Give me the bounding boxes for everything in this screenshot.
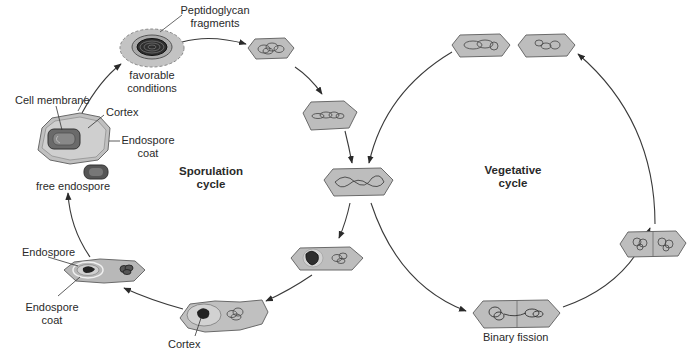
- label-endospore-coat-bottom-line2: coat: [22, 314, 82, 327]
- label-binary-fission: Binary fission: [483, 331, 548, 344]
- arrow-cortex-to-endospore: [124, 288, 183, 309]
- arrow-cell1-to-cell2: [295, 67, 322, 94]
- vegetative-cell-1: [248, 38, 294, 59]
- label-peptidoglycan-fragments: Peptidoglycan fragments: [180, 4, 250, 30]
- vegetative-cell-branch: [324, 168, 393, 196]
- endospore-in-cell: [48, 257, 145, 296]
- free-endospore: [84, 165, 108, 179]
- arrow-cell2-to-center: [345, 131, 352, 163]
- label-vegetative-line2: cycle: [478, 177, 548, 190]
- forespore-cell: [291, 247, 363, 270]
- germinating-spore: [120, 15, 184, 67]
- label-sporulation-line2: cycle: [178, 178, 244, 191]
- daughter-cell-left: [452, 34, 510, 57]
- label-vegetative-line1: Vegetative: [478, 164, 548, 177]
- label-free-endospore: free endospore: [36, 180, 110, 193]
- cortex-cell: [180, 300, 268, 336]
- label-sporulation-cycle: Sporulation cycle: [178, 165, 244, 191]
- label-sporulation-line1: Sporulation: [178, 165, 244, 178]
- vegetative-cell-2: [303, 101, 357, 130]
- diagram-canvas: [0, 0, 698, 358]
- arrow-germination-to-cell1: [182, 38, 246, 44]
- label-peptidoglycan-line1: Peptidoglycan: [180, 4, 250, 17]
- label-cortex-top: Cortex: [106, 106, 138, 119]
- label-endospore: Endospore: [22, 246, 75, 259]
- daughter-cell-right: [518, 34, 575, 57]
- arrow-forespore-to-cortex: [266, 275, 312, 301]
- binary-fission-cell: [473, 300, 560, 328]
- label-endospore-coat-bottom-line1: Endospore: [22, 301, 82, 314]
- label-peptidoglycan-line2: fragments: [180, 17, 250, 30]
- label-vegetative-cycle: Vegetative cycle: [478, 164, 548, 190]
- label-endospore-coat-top-line2: coat: [119, 147, 177, 160]
- arrow-center-to-forespore: [339, 203, 350, 238]
- label-favorable-line1: favorable: [118, 69, 186, 82]
- label-favorable-conditions: favorable conditions: [118, 69, 186, 95]
- arrow-vegetative-to-center: [369, 52, 452, 163]
- dividing-cells: [620, 231, 686, 257]
- arrow-dividing-to-daughter: [578, 54, 655, 224]
- label-cortex-bottom: Cortex: [168, 338, 200, 351]
- label-endospore-coat-bottom: Endospore coat: [22, 301, 82, 327]
- label-favorable-line2: conditions: [118, 82, 186, 95]
- label-cell-membrane: Cell membrane: [15, 94, 90, 107]
- label-endospore-coat-top-line1: Endospore: [119, 134, 177, 147]
- label-endospore-coat-top: Endospore coat: [119, 134, 177, 160]
- life-cycle-diagram: [0, 0, 698, 358]
- arrow-center-to-binary-fission: [371, 203, 466, 311]
